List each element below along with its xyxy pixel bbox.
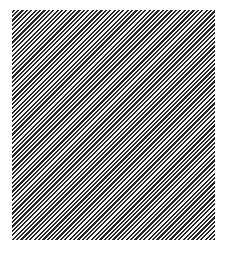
diagonal-stripe-pattern xyxy=(12,10,215,240)
